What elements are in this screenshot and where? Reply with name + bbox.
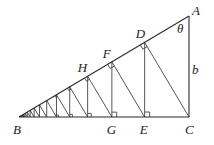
right-angle-mark xyxy=(112,112,117,117)
label-d: D xyxy=(135,26,146,41)
triangle-diagram: A B C D E F G H b θ xyxy=(0,0,214,145)
label-b-vertex: B xyxy=(13,122,21,137)
perpendicular-to-hypotenuse xyxy=(39,105,46,117)
perpendicular-to-hypotenuse xyxy=(88,76,112,117)
label-c: C xyxy=(185,122,194,137)
perpendicular-to-hypotenuse xyxy=(47,101,57,117)
triangle-abc xyxy=(19,16,189,117)
perpendicular-to-hypotenuse xyxy=(145,42,189,117)
perpendicular-to-hypotenuse xyxy=(70,87,88,117)
perpendicular-to-hypotenuse xyxy=(34,108,39,117)
label-theta: θ xyxy=(177,21,184,36)
perpendicular-to-hypotenuse xyxy=(112,62,145,117)
label-f: F xyxy=(102,46,112,61)
label-side-b: b xyxy=(192,62,199,77)
label-e: E xyxy=(139,122,148,137)
label-g: G xyxy=(107,122,117,137)
hypotenuse-ab xyxy=(19,16,189,117)
right-angle-mark xyxy=(145,112,150,117)
perpendicular-to-hypotenuse xyxy=(30,110,34,117)
label-h: H xyxy=(77,60,88,75)
perpendicular-to-hypotenuse xyxy=(56,95,69,117)
label-a: A xyxy=(191,3,200,18)
